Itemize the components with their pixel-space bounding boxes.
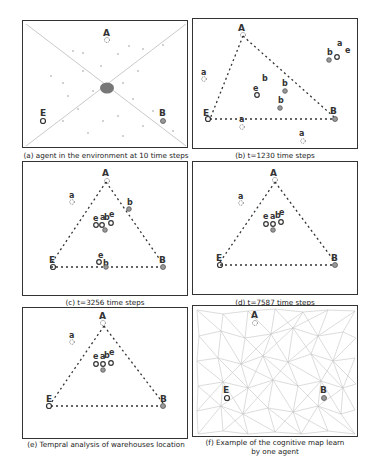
svg-text:E: E xyxy=(49,255,55,265)
panel-f-plot: A E B xyxy=(193,306,359,438)
panel-f: A E B xyxy=(192,305,358,437)
svg-text:e: e xyxy=(345,46,351,55)
svg-text:B: B xyxy=(331,253,338,263)
svg-text:A: A xyxy=(102,168,109,178)
svg-text:a: a xyxy=(337,39,342,48)
svg-text:B: B xyxy=(159,108,166,118)
caption-b: (b) t=1230 time steps xyxy=(192,151,358,160)
panel-e: A E B a eabe xyxy=(22,307,188,439)
panel-c: A E B ab eabe eb xyxy=(22,161,188,296)
svg-text:e: e xyxy=(263,212,269,221)
label-A: A xyxy=(103,28,110,38)
svg-text:A: A xyxy=(251,310,258,320)
panel-e-plot: A E B a eabe xyxy=(23,308,189,440)
svg-text:A: A xyxy=(99,311,106,321)
svg-text:B: B xyxy=(160,394,167,404)
panel-d-plot: A E B a eabe xyxy=(193,162,359,296)
svg-text:b: b xyxy=(262,74,268,83)
svg-text:b: b xyxy=(278,96,284,105)
svg-text:a: a xyxy=(69,191,74,200)
svg-text:a: a xyxy=(69,331,74,340)
panel-c-plot: A E B ab eabe eb xyxy=(23,162,189,297)
svg-text:A: A xyxy=(270,168,277,178)
panel-b-plot: A E B aaaa bbbb ee xyxy=(193,19,359,150)
svg-text:e: e xyxy=(93,214,99,223)
svg-text:a: a xyxy=(239,115,244,124)
svg-text:b: b xyxy=(327,48,333,57)
caption-c: (c) t=3256 time steps xyxy=(22,298,188,307)
agent-marker xyxy=(100,83,114,94)
svg-text:B: B xyxy=(159,255,166,265)
svg-text:E: E xyxy=(223,385,229,395)
panel-a: A E B xyxy=(22,20,188,148)
svg-text:a: a xyxy=(201,68,206,77)
svg-text:A: A xyxy=(238,23,245,33)
svg-text:e: e xyxy=(253,84,259,93)
svg-text:b: b xyxy=(127,198,133,207)
svg-text:B: B xyxy=(320,385,327,395)
svg-text:a: a xyxy=(299,129,304,138)
svg-text:E: E xyxy=(216,253,222,263)
svg-text:e: e xyxy=(109,210,115,219)
svg-text:e: e xyxy=(109,348,115,357)
svg-text:B: B xyxy=(330,106,337,116)
panel-b: A E B aaaa bbbb ee xyxy=(192,18,358,149)
svg-text:E: E xyxy=(46,394,52,404)
svg-text:E: E xyxy=(40,108,46,118)
panel-d: A E B a eabe xyxy=(192,161,358,295)
svg-text:b: b xyxy=(282,79,288,88)
caption-f-line2: by one agent xyxy=(192,447,358,456)
panel-a-plot: A E B xyxy=(23,21,189,149)
caption-a: (a) agent in the environment at 10 time … xyxy=(20,151,192,160)
svg-text:e: e xyxy=(279,208,285,217)
caption-e: (e) Tempral analysis of warehouses locat… xyxy=(20,440,192,449)
svg-text:a: a xyxy=(238,192,243,201)
caption-f-line1: (f) Example of the cognitive map learn xyxy=(192,438,358,447)
svg-text:e: e xyxy=(93,352,99,361)
